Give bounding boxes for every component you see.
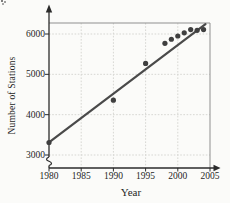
x-tick-label: 2000	[163, 171, 193, 182]
y-tick-label: 4000	[17, 109, 45, 121]
x-tick-label: 1985	[66, 171, 96, 182]
y-tick-label: 5000	[17, 68, 45, 80]
y-tick-label: 3000	[17, 149, 45, 161]
x-tick-label: 2005	[195, 171, 225, 182]
y-axis-title: Number of Stations	[7, 31, 20, 161]
x-axis-title: Year	[106, 186, 156, 198]
x-tick-label: 1990	[98, 171, 128, 182]
x-tick-label: 1995	[131, 171, 161, 182]
y-tick-label: 6000	[17, 28, 45, 40]
chart-figure: 6000500040003000 19801985199019952000200…	[0, 0, 230, 203]
x-tick-label: 1980	[34, 171, 64, 182]
